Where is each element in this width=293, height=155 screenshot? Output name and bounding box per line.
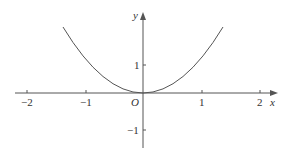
y-tick-label-neg1: −1 [127,124,139,136]
y-axis-label: y [132,9,138,21]
x-tick-label-2: 2 [257,96,263,108]
x-tick-label-1: 1 [199,96,205,108]
x-tick-label-neg2: −2 [21,96,33,108]
y-tick-label-1: 1 [134,59,140,71]
function-graph: −2 −1 1 2 x O y 1 −1 [0,0,293,155]
y-axis-arrow-icon [140,12,146,20]
x-axis-label: x [269,96,275,108]
x-tick-label-neg1: −1 [80,96,92,108]
origin-label: O [131,96,139,108]
